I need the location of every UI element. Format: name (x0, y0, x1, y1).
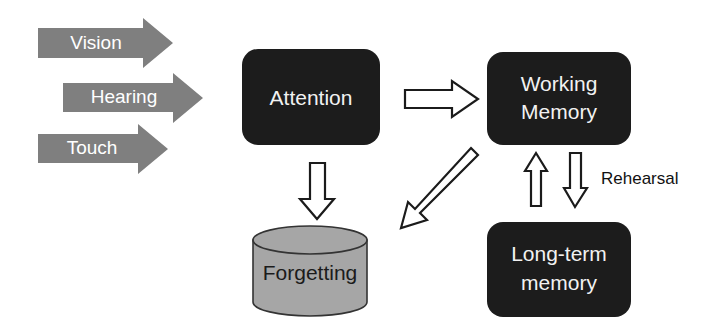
edge-attention-to-working-memory (405, 81, 478, 117)
rehearsal-label: Rehearsal (601, 169, 679, 188)
working-memory-label-line2: Memory (521, 100, 597, 123)
forgetting-label: Forgetting (263, 261, 358, 284)
memory-model-diagram: Vision Hearing Touch Rehe (0, 0, 726, 335)
edge-attention-to-forgetting (300, 163, 334, 219)
sense-arrow-vision: Vision (38, 18, 173, 68)
working-memory-label-line1: Working (521, 72, 598, 95)
long-term-memory-box-shape (487, 222, 631, 317)
attention-label: Attention (270, 86, 353, 109)
arrow-attention-to-forgetting (300, 163, 334, 219)
node-forgetting: Forgetting (253, 226, 367, 316)
working-memory-box-shape (487, 52, 631, 145)
arrow-working-memory-to-forgetting (401, 148, 478, 228)
hearing-arrow-label: Hearing (91, 86, 158, 107)
long-term-memory-label-line1: Long-term (511, 242, 607, 265)
touch-arrow-label: Touch (67, 137, 118, 158)
vision-arrow-label: Vision (70, 32, 121, 53)
sense-arrow-touch: Touch (38, 124, 168, 174)
sense-arrow-hearing: Hearing (63, 73, 203, 123)
node-working-memory: Working Memory (487, 52, 631, 145)
edge-long-term-memory-to-working-memory (525, 153, 547, 206)
arrow-working-memory-to-long-term-memory (564, 153, 587, 207)
arrow-long-term-memory-to-working-memory (525, 153, 547, 206)
node-attention: Attention (242, 49, 380, 145)
long-term-memory-label-line2: memory (521, 271, 597, 294)
arrow-attention-to-working-memory (405, 81, 478, 117)
edge-working-memory-to-long-term-memory: Rehearsal (564, 153, 679, 207)
edge-working-memory-to-forgetting (401, 148, 478, 228)
node-long-term-memory: Long-term memory (487, 222, 631, 317)
forgetting-cylinder-top (253, 226, 367, 254)
diagram-canvas: Vision Hearing Touch Rehe (0, 0, 726, 335)
